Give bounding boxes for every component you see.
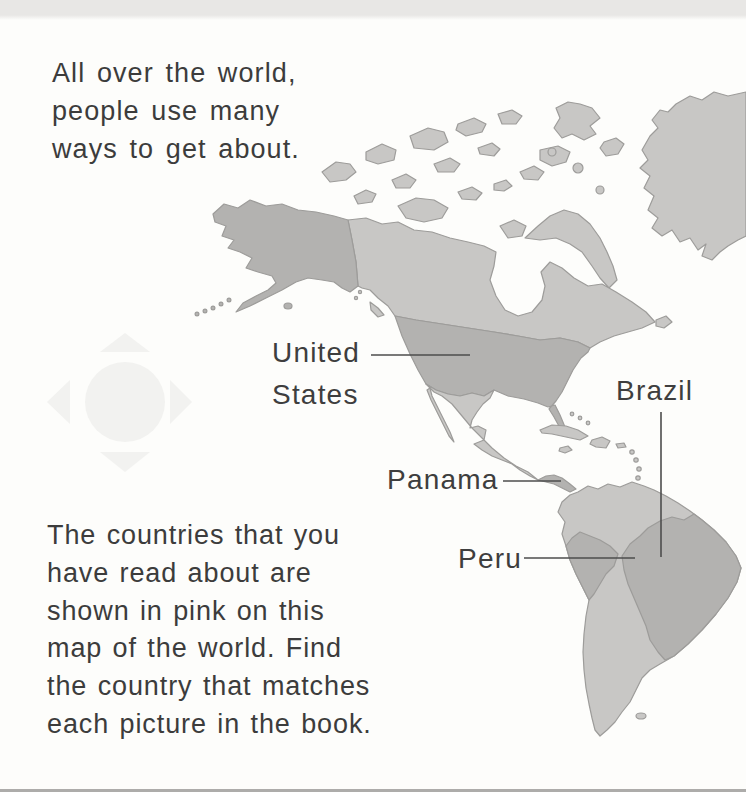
region-greenland	[640, 92, 746, 260]
region-aleutian-islet	[195, 312, 199, 316]
book-page: All over the world, people use many ways…	[0, 0, 746, 792]
region-arctic-island	[354, 190, 376, 204]
region-bahamas-islet	[570, 412, 574, 416]
region-falkland-islands	[636, 713, 646, 719]
region-coastal-islet	[358, 290, 361, 293]
region-panama	[538, 475, 576, 492]
map-label-panama: Panama	[387, 459, 499, 501]
region-newfoundland	[656, 316, 672, 328]
region-antilles-islet	[634, 458, 638, 462]
page-bottom-edge	[0, 776, 746, 792]
region-arctic-island	[573, 163, 583, 173]
intro-text: All over the world, people use many ways…	[52, 54, 300, 168]
region-arctic-island	[478, 143, 500, 156]
intro-line: people use many	[52, 92, 300, 130]
region-vancouver-island	[370, 302, 384, 317]
region-alaska	[213, 200, 358, 312]
region-aleutian-islet	[227, 298, 231, 302]
region-aleutian-islet	[203, 309, 207, 313]
region-arctic-island	[392, 174, 416, 188]
instruction-line: map of the world. Find	[47, 630, 372, 668]
map-label-line: United	[272, 332, 360, 374]
map-label-brazil: Brazil	[616, 370, 693, 412]
map-label-line: States	[272, 374, 360, 416]
region-aleutian-islet	[211, 306, 215, 310]
region-victoria-island	[398, 198, 448, 222]
region-cuba	[540, 425, 588, 440]
region-arctic-island	[366, 144, 396, 164]
instruction-text: The countries that you have read about a…	[47, 517, 372, 744]
instruction-line: The countries that you	[47, 517, 372, 555]
region-southampton-island	[500, 220, 526, 238]
region-arctic-island	[520, 166, 544, 180]
instruction-line: the country that matches	[47, 668, 372, 706]
region-arctic-island	[410, 128, 448, 150]
map-label-peru: Peru	[458, 538, 522, 580]
region-arctic-island	[322, 162, 356, 182]
region-arctic-island	[494, 180, 512, 191]
region-arctic-island	[498, 110, 522, 124]
region-arctic-island	[600, 138, 624, 156]
instruction-line: have read about are	[47, 555, 372, 593]
region-arctic-island	[456, 118, 486, 136]
intro-line: All over the world,	[52, 54, 300, 92]
intro-line: ways to get about.	[52, 130, 300, 168]
region-arctic-island	[458, 187, 482, 200]
region-aleutian-islet	[219, 302, 223, 306]
region-bahamas-islet	[578, 416, 582, 420]
region-arctic-island	[434, 158, 460, 172]
region-hispaniola	[590, 437, 610, 448]
region-arctic-island	[548, 148, 556, 156]
region-antilles-islet	[630, 450, 634, 454]
region-ellesmere-island	[554, 102, 600, 140]
instruction-line: shown in pink on this	[47, 593, 372, 631]
region-antilles-islet	[637, 467, 641, 471]
instruction-line: each picture in the book.	[47, 706, 372, 744]
region-puerto-rico	[616, 443, 626, 448]
region-kodiak-island	[284, 303, 292, 309]
region-coastal-islet	[354, 296, 357, 299]
region-jamaica	[559, 446, 572, 453]
region-bahamas-islet	[586, 421, 590, 425]
region-arctic-island	[596, 186, 604, 194]
map-label-united-states: United States	[272, 332, 360, 416]
region-antilles-islet	[636, 476, 640, 480]
